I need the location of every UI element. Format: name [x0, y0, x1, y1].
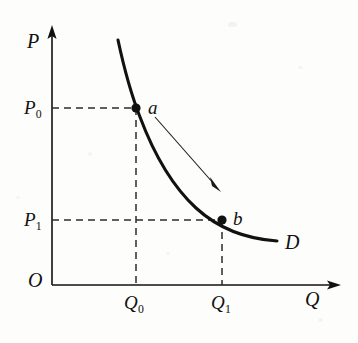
origin-label: O — [28, 270, 42, 290]
quantity-axis-label: Q — [305, 289, 319, 309]
price-tick-p0-subscript: 0 — [36, 108, 42, 121]
movement-arrow-shaft — [155, 117, 214, 184]
marked-points-group — [131, 103, 226, 224]
point-a-marker — [131, 103, 140, 112]
price-tick-p1-base: P — [24, 209, 36, 230]
point-b-label: b — [233, 209, 243, 228]
price-tick-p1: P1 — [24, 210, 42, 229]
price-tick-p1-subscript: 1 — [36, 220, 42, 233]
quantity-tick-q1-subscript: 1 — [225, 303, 231, 316]
quantity-tick-q0-base: Q — [124, 292, 138, 313]
price-tick-p0: P0 — [24, 98, 42, 117]
point-a-label: a — [148, 98, 158, 117]
point-b-marker — [217, 215, 226, 224]
demand-curve — [118, 40, 277, 241]
demand-curve-figure: P Q O P0 P1 Q0 Q1 a b D — [0, 0, 358, 343]
quantity-tick-q1-base: Q — [211, 292, 225, 313]
quantity-tick-q0-subscript: 0 — [138, 303, 144, 316]
price-tick-p0-base: P — [24, 97, 36, 118]
quantity-tick-q1: Q1 — [211, 293, 231, 312]
price-axis-label: P — [27, 31, 39, 51]
demand-curve-label: D — [285, 232, 299, 252]
quantity-tick-q0: Q0 — [124, 293, 144, 312]
movement-arrow-head — [206, 177, 221, 192]
guide-lines-group — [52, 108, 222, 285]
movement-arrow — [155, 117, 221, 192]
